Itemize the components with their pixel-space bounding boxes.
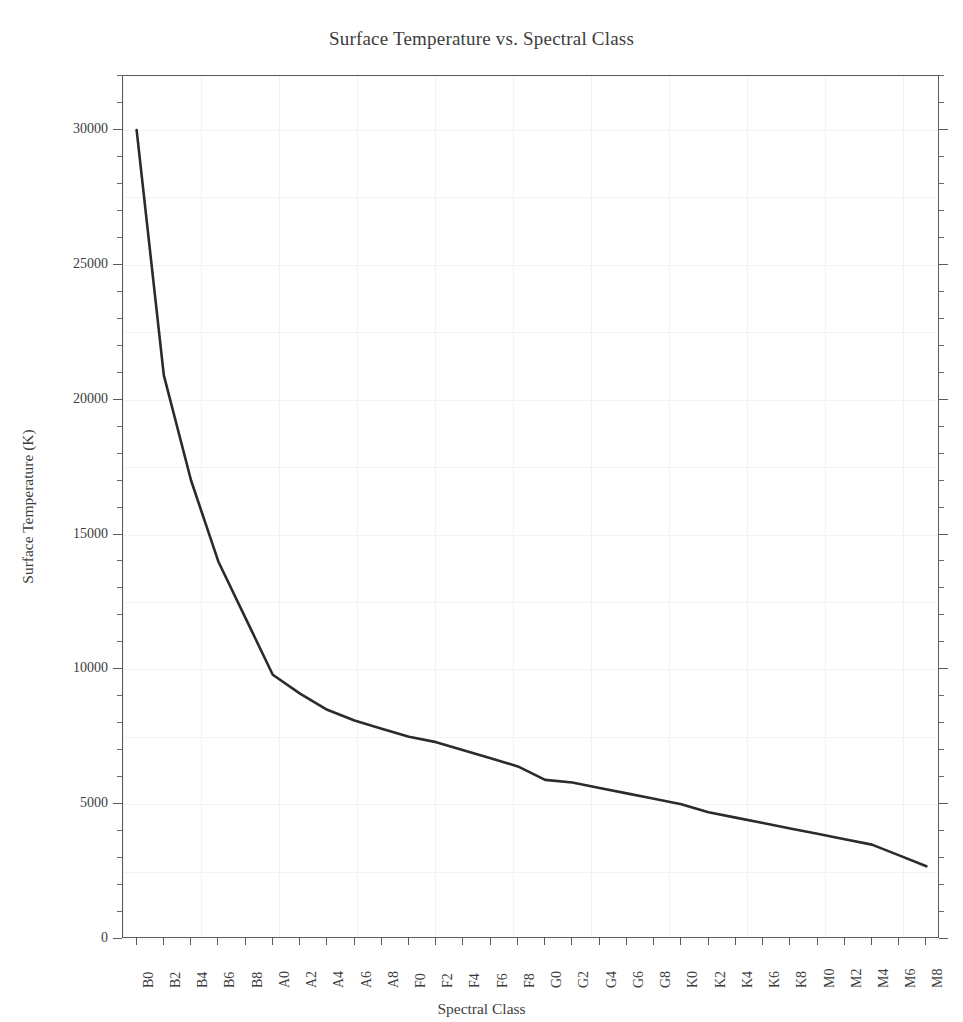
y-axis-tick-minor-right <box>939 237 944 238</box>
x-axis-tick-label: G0 <box>549 971 565 988</box>
y-axis-tick-label: 5000 <box>80 795 108 811</box>
x-axis-tick-label: M0 <box>822 969 838 988</box>
y-axis-tick-minor <box>117 857 122 858</box>
y-axis-tick-minor <box>117 453 122 454</box>
x-axis-tick-label: A2 <box>304 971 320 988</box>
x-axis-tick-label: M4 <box>876 969 892 988</box>
y-axis-tick-minor <box>117 102 122 103</box>
y-axis-tick-minor <box>117 237 122 238</box>
temperature-curve <box>123 76 940 939</box>
x-axis-tick-label: K2 <box>713 971 729 988</box>
y-axis-tick-minor-right <box>939 560 944 561</box>
y-axis-tick-label: 20000 <box>73 391 108 407</box>
chart-title: Surface Temperature vs. Spectral Class <box>0 28 963 50</box>
y-axis-tick-minor-right <box>939 614 944 615</box>
y-axis-tick-major <box>113 399 122 400</box>
y-axis-tick-major-right <box>939 399 948 400</box>
y-axis-tick-minor <box>117 560 122 561</box>
y-axis-tick-minor-right <box>939 453 944 454</box>
y-axis-tick-major <box>113 264 122 265</box>
y-axis-tick-major-right <box>939 803 948 804</box>
y-axis-tick-major-right <box>939 534 948 535</box>
y-axis-tick-minor-right <box>939 911 944 912</box>
x-axis-tick-label: B8 <box>250 972 266 988</box>
y-axis-tick-minor-right <box>939 587 944 588</box>
x-axis-tick-label: M8 <box>930 969 946 988</box>
y-axis-tick-minor <box>117 75 122 76</box>
y-axis-tick-minor-right <box>939 183 944 184</box>
y-axis-tick-minor <box>117 156 122 157</box>
y-axis-tick-minor <box>117 830 122 831</box>
y-axis-tick-minor <box>117 507 122 508</box>
x-axis-tick-label: A8 <box>386 971 402 988</box>
y-axis-tick-minor <box>117 372 122 373</box>
y-axis-tick-minor-right <box>939 857 944 858</box>
y-axis-tick-major <box>113 129 122 130</box>
y-axis-tick-major <box>113 668 122 669</box>
x-axis-tick-label: A6 <box>359 971 375 988</box>
x-axis-tick-label: F8 <box>522 973 538 988</box>
y-axis-tick-label: 15000 <box>73 526 108 542</box>
y-axis-tick-label: 10000 <box>73 660 108 676</box>
y-axis-tick-minor <box>117 587 122 588</box>
temperature-line-series <box>137 130 927 866</box>
y-axis-tick-major <box>113 534 122 535</box>
x-axis-tick-labels: B0B2B4B6B8A0A2A4A6A8F0F2F4F6F8G0G2G4G6G8… <box>0 944 963 994</box>
y-axis-tick-minor <box>117 776 122 777</box>
y-axis-tick-minor-right <box>939 291 944 292</box>
y-axis-tick-minor-right <box>939 722 944 723</box>
x-axis-tick-label: G2 <box>576 971 592 988</box>
y-axis-tick-minor <box>117 749 122 750</box>
x-axis-tick-label: M2 <box>849 969 865 988</box>
y-axis-tick-minor-right <box>939 695 944 696</box>
x-axis-tick-label: K6 <box>767 971 783 988</box>
x-axis-tick-label: K4 <box>740 971 756 988</box>
y-axis-tick-minor-right <box>939 156 944 157</box>
y-axis-tick-minor-right <box>939 480 944 481</box>
y-axis-tick-major <box>113 803 122 804</box>
y-axis-ticks-right <box>939 0 963 1022</box>
x-axis-tick-label: A4 <box>331 971 347 988</box>
x-axis-tick-label: K0 <box>685 971 701 988</box>
y-axis-tick-minor-right <box>939 641 944 642</box>
y-axis-tick-minor-right <box>939 884 944 885</box>
x-axis-tick-label: G8 <box>658 971 674 988</box>
y-axis-tick-minor <box>117 614 122 615</box>
y-axis-tick-label: 25000 <box>73 256 108 272</box>
y-axis-tick-major-right <box>939 129 948 130</box>
x-axis-tick-label: M6 <box>903 969 919 988</box>
x-axis-tick-label: F4 <box>467 973 483 988</box>
y-axis-tick-minor-right <box>939 102 944 103</box>
y-axis-tick-label: 30000 <box>73 121 108 137</box>
y-axis-tick-minor <box>117 426 122 427</box>
x-axis-tick-label: B0 <box>141 972 157 988</box>
x-axis-tick-label: B4 <box>195 972 211 988</box>
y-axis-tick-minor-right <box>939 426 944 427</box>
plot-area <box>122 75 939 938</box>
x-axis-tick-label: B6 <box>222 972 238 988</box>
y-axis-tick-minor-right <box>939 372 944 373</box>
x-axis-tick-label: B2 <box>168 972 184 988</box>
y-axis-tick-major-right <box>939 668 948 669</box>
x-axis-tick-label: G4 <box>604 971 620 988</box>
y-axis-tick-minor-right <box>939 776 944 777</box>
x-axis-tick-label: F6 <box>495 973 511 988</box>
y-axis-tick-minor-right <box>939 749 944 750</box>
y-axis-tick-minor <box>117 318 122 319</box>
x-axis-tick-label: A0 <box>277 971 293 988</box>
y-axis-tick-major-right <box>939 264 948 265</box>
x-axis-tick-label: K8 <box>794 971 810 988</box>
x-axis-tick-label: G6 <box>631 971 647 988</box>
y-axis-tick-minor <box>117 911 122 912</box>
y-axis-tick-minor-right <box>939 830 944 831</box>
y-axis-tick-minor-right <box>939 345 944 346</box>
y-axis-tick-minor-right <box>939 210 944 211</box>
y-axis-tick-minor <box>117 722 122 723</box>
y-axis-tick-minor <box>117 291 122 292</box>
y-axis-tick-minor <box>117 480 122 481</box>
x-axis-tick-label: F2 <box>440 973 456 988</box>
y-axis-tick-minor <box>117 345 122 346</box>
y-axis-tick-minor-right <box>939 75 944 76</box>
y-axis-tick-minor <box>117 183 122 184</box>
y-axis-title: Surface Temperature (K) <box>14 75 42 938</box>
